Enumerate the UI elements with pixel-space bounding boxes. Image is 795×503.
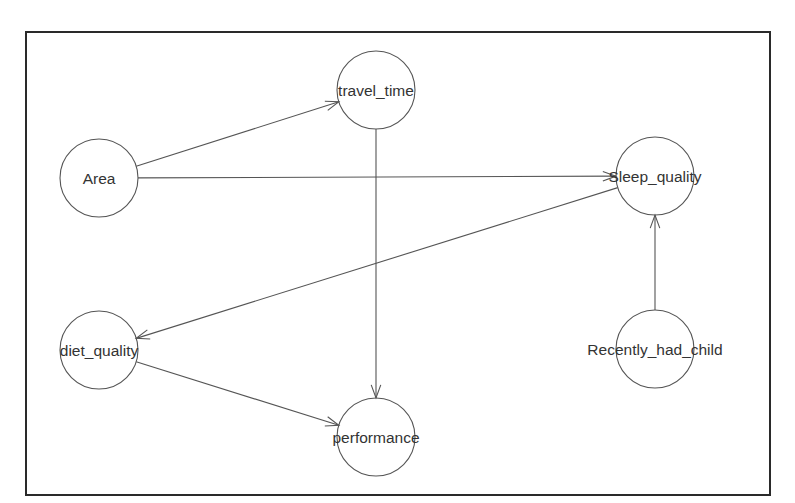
edge-Sleep_quality-to-diet_quality bbox=[136, 188, 618, 339]
node-label: performance bbox=[332, 429, 419, 446]
edge-Area-to-Sleep_quality bbox=[138, 171, 616, 181]
node-label: diet_quality bbox=[60, 342, 139, 359]
plot-frame bbox=[26, 32, 770, 495]
node-travel_time: travel_time bbox=[337, 51, 415, 129]
node-Area: Area bbox=[60, 139, 138, 217]
edge-line bbox=[136, 188, 618, 339]
node-label: Sleep_quality bbox=[608, 168, 701, 185]
edge-diet_quality-to-performance bbox=[136, 362, 339, 426]
edges-layer bbox=[136, 101, 660, 426]
edge-line bbox=[138, 176, 616, 178]
node-label: Area bbox=[83, 170, 116, 187]
node-label: travel_time bbox=[338, 82, 414, 99]
edge-Area-to-travel_time bbox=[136, 101, 339, 166]
edge-line bbox=[136, 362, 339, 426]
node-diet_quality: diet_quality bbox=[60, 311, 139, 389]
dag-canvas: Areatravel_timeSleep_qualitydiet_quality… bbox=[0, 0, 795, 503]
edge-line bbox=[136, 102, 339, 166]
node-label: Recently_had_child bbox=[587, 341, 722, 358]
edge-Recently_had_child-to-Sleep_quality bbox=[650, 215, 660, 310]
node-performance: performance bbox=[332, 398, 419, 476]
nodes-layer: Areatravel_timeSleep_qualitydiet_quality… bbox=[60, 51, 723, 476]
node-Recently_had_child: Recently_had_child bbox=[587, 310, 722, 388]
node-Sleep_quality: Sleep_quality bbox=[608, 137, 701, 215]
